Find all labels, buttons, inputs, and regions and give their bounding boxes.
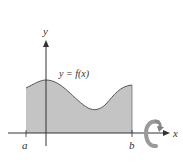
y-axis-arrow-icon [43, 40, 49, 47]
x-axis-label: x [172, 127, 178, 139]
rotate-around-x-axis-icon [146, 121, 164, 146]
y-axis-label: y [42, 25, 48, 37]
solid-of-revolution-diagram: y x y = f(x) a b [0, 0, 183, 163]
shaded-region [26, 80, 132, 133]
curve-label: y = f(x) [58, 68, 90, 80]
left-bound-label: a [22, 139, 28, 151]
x-axis-arrow-icon [163, 130, 170, 136]
right-bound-label: b [129, 139, 135, 151]
